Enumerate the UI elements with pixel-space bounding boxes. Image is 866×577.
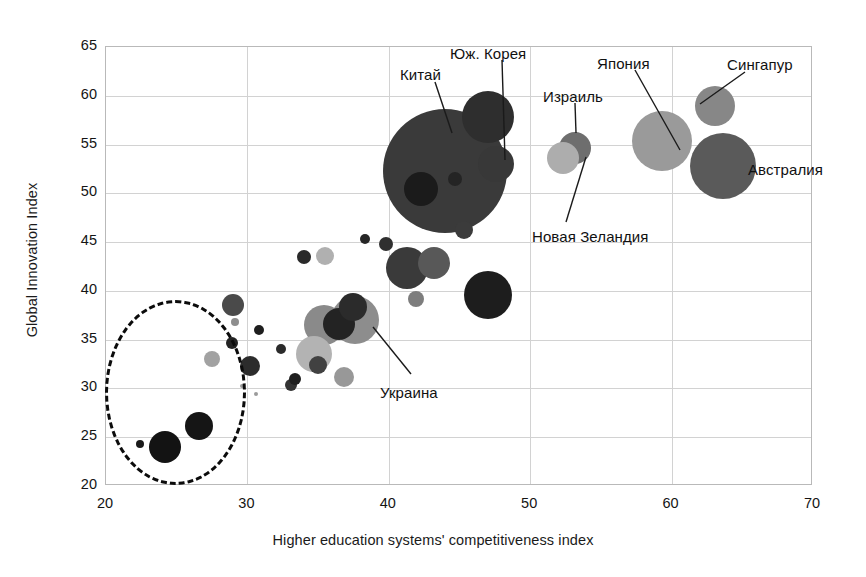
bubble-point[interactable] xyxy=(289,373,301,385)
bubble-point[interactable] xyxy=(254,325,264,335)
x-tick-label: 70 xyxy=(792,495,832,511)
callout-label-Япония: Япония xyxy=(597,55,650,72)
x-tick-label: 20 xyxy=(85,495,125,511)
bubble-point[interactable] xyxy=(464,271,512,319)
bubble-point[interactable] xyxy=(222,294,244,316)
gridline-vertical xyxy=(247,47,248,484)
callout-label-Новая Зеландия: Новая Зеландия xyxy=(532,228,649,245)
bubble-point[interactable] xyxy=(316,247,334,265)
y-tick-label: 55 xyxy=(57,135,97,151)
bubble-point[interactable] xyxy=(276,344,286,354)
bubble-Сингапур[interactable] xyxy=(695,86,735,126)
bubble-point[interactable] xyxy=(254,392,258,396)
bubble-point[interactable] xyxy=(309,356,327,374)
y-tick-label: 35 xyxy=(57,330,97,346)
gridline-horizontal xyxy=(106,242,811,243)
bubble-point[interactable] xyxy=(455,221,473,239)
bubble-point[interactable] xyxy=(478,146,514,182)
bubble-point[interactable] xyxy=(297,250,311,264)
bubble-Новая Зеландия[interactable] xyxy=(547,142,579,174)
y-tick-label: 30 xyxy=(57,378,97,394)
bubble-point[interactable] xyxy=(448,172,462,186)
gridline-vertical xyxy=(530,47,531,484)
callout-label-Израиль: Израиль xyxy=(543,88,603,105)
bubble-point[interactable] xyxy=(360,234,370,244)
callout-label-Китай: Китай xyxy=(400,66,441,83)
x-tick-label: 50 xyxy=(509,495,549,511)
bubble-point[interactable] xyxy=(231,318,239,326)
bubble-Австралия[interactable] xyxy=(690,133,756,199)
callout-label-Юж. Корея: Юж. Корея xyxy=(450,45,526,62)
callout-label-Украина: Украина xyxy=(380,384,438,401)
bubble-point[interactable] xyxy=(334,367,354,387)
bubble-point[interactable] xyxy=(418,247,450,279)
y-tick-label: 40 xyxy=(57,281,97,297)
y-tick-label: 25 xyxy=(57,427,97,443)
y-tick-label: 65 xyxy=(57,37,97,53)
highlight-ellipse-annotation xyxy=(105,300,246,485)
x-tick-label: 40 xyxy=(368,495,408,511)
y-tick-label: 60 xyxy=(57,86,97,102)
x-tick-label: 60 xyxy=(651,495,691,511)
callout-label-Австралия: Австралия xyxy=(748,161,823,178)
x-axis-title: Higher education systems' competitivenes… xyxy=(0,532,866,548)
y-tick-label: 20 xyxy=(57,476,97,492)
callout-label-Сингапур: Сингапур xyxy=(727,56,793,73)
gridline-horizontal xyxy=(106,291,811,292)
y-tick-label: 45 xyxy=(57,232,97,248)
y-axis-title: Global Innovation Index xyxy=(24,110,40,410)
bubble-Япония[interactable] xyxy=(632,111,692,171)
bubble-point[interactable] xyxy=(379,237,393,251)
plot-area xyxy=(105,46,812,485)
bubble-Юж. Корея[interactable] xyxy=(462,91,514,143)
x-tick-label: 30 xyxy=(226,495,266,511)
bubble-chart: Global Innovation Index Higher education… xyxy=(0,0,866,577)
y-tick-label: 50 xyxy=(57,183,97,199)
bubble-point[interactable] xyxy=(408,291,424,307)
